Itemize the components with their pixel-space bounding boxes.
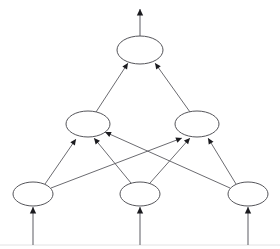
network-input-arrow-2-arrowhead-icon (137, 207, 143, 214)
network-input-arrow-1 (30, 207, 36, 245)
edge-hidden-2-to-output-1-arrowhead-icon (155, 63, 161, 70)
network-input-arrow-1-arrowhead-icon (30, 207, 36, 214)
edge-input-3-to-hidden-2-line (208, 138, 236, 184)
network-input-arrow-3-arrowhead-icon (245, 207, 251, 214)
edge-hidden-2-to-output-1 (155, 63, 190, 112)
hidden-node-2[interactable] (175, 111, 219, 137)
network-input-arrow-3 (245, 207, 251, 245)
edge-input-3-to-hidden-2-arrowhead-icon (208, 138, 214, 145)
edge-hidden-1-to-output-1 (96, 63, 128, 112)
input-node-2[interactable] (120, 182, 160, 206)
output-node-1[interactable] (117, 36, 163, 64)
edge-input-1-to-hidden-1-line (45, 139, 76, 184)
input-node-2-shape[interactable] (120, 182, 160, 206)
output-layer (117, 36, 163, 64)
hidden-node-1-shape[interactable] (66, 111, 110, 137)
network-output-arrow (137, 9, 143, 37)
input-node-3-shape[interactable] (228, 182, 268, 206)
edge-input-1-to-hidden-2 (51, 138, 182, 188)
edge-input-2-to-hidden-2 (150, 138, 190, 183)
neural-network-diagram (0, 0, 280, 249)
network-output-arrow-arrowhead-icon (137, 9, 143, 16)
network-input-arrow-2 (137, 207, 143, 245)
edge-input-1-to-hidden-1 (45, 139, 76, 184)
input-node-3[interactable] (228, 182, 268, 206)
edge-input-2-to-hidden-1-line (94, 138, 131, 183)
input-node-1-shape[interactable] (13, 182, 53, 206)
edge-hidden-1-to-output-1-arrowhead-icon (122, 63, 128, 70)
edge-input-2-to-hidden-1-arrowhead-icon (94, 138, 100, 144)
edge-input-1-to-hidden-2-line (51, 138, 182, 188)
input-node-1[interactable] (13, 182, 53, 206)
nodes-group (13, 36, 268, 206)
edge-hidden-2-to-output-1-line (155, 63, 190, 112)
edge-input-3-to-hidden-2 (208, 138, 236, 184)
input-layer (13, 182, 268, 206)
hidden-node-2-shape[interactable] (175, 111, 219, 137)
edge-hidden-1-to-output-1-line (96, 63, 128, 112)
hidden-node-1[interactable] (66, 111, 110, 137)
edge-input-1-to-hidden-1-arrowhead-icon (70, 139, 76, 146)
hidden-layer (66, 111, 219, 137)
output-node-1-shape[interactable] (117, 36, 163, 64)
edge-input-2-to-hidden-1 (94, 138, 131, 183)
neural-network-canvas (0, 0, 280, 249)
